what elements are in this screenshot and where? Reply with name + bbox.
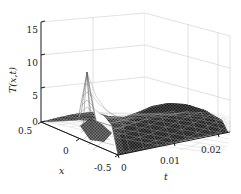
x-tick-0: 0 — [63, 147, 69, 156]
x-axis-title: x — [59, 166, 64, 176]
t-tick-0: 0 — [121, 164, 127, 173]
z-axis-title: T(x,t) — [8, 67, 18, 93]
t-tick-0p02: 0.02 — [201, 146, 221, 155]
t-axis-title: t — [164, 172, 168, 182]
z-tick-5: 5 — [18, 92, 38, 101]
z-tick-10: 10 — [18, 59, 38, 68]
x-tick-0p5: 0.5 — [18, 127, 32, 136]
surface-plot-figure: 15 10 5 0 T(x,t) 0.5 0 -0.5 x 0 0.01 0.0… — [0, 0, 241, 194]
t-tick-0p01: 0.01 — [160, 157, 180, 166]
z-tick-15: 15 — [18, 26, 38, 35]
x-tick-neg0p5: -0.5 — [94, 164, 111, 173]
